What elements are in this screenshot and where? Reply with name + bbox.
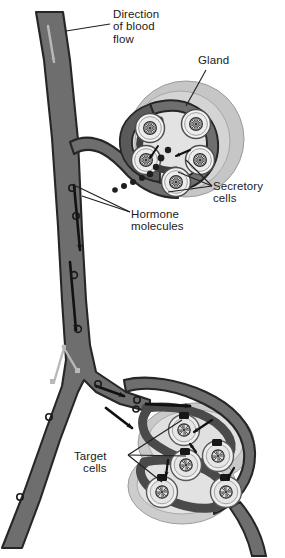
target-cell bbox=[147, 477, 178, 508]
secretory-cell bbox=[162, 168, 191, 197]
target-cell bbox=[169, 415, 200, 446]
label-target-cells: Target cells bbox=[74, 450, 107, 475]
figure-canvas: Direction of blood flow Gland Secretory … bbox=[0, 0, 285, 558]
target-cell bbox=[211, 477, 242, 508]
label-hormone-molecules: Hormone molecules bbox=[131, 208, 184, 233]
label-gland: Gland bbox=[198, 54, 229, 66]
endocrine-diagram-illustration bbox=[0, 0, 285, 558]
label-direction-of-blood-flow: Direction of blood flow bbox=[113, 8, 159, 45]
secretory-cell bbox=[136, 114, 165, 143]
secretory-cell bbox=[182, 110, 211, 139]
label-secretory-cells: Secretory cells bbox=[213, 180, 263, 205]
